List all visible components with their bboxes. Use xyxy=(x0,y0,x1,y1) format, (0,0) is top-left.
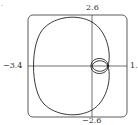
x-min-label: −3.4 xyxy=(3,62,22,70)
x-max-label: 1.8 xyxy=(130,62,138,70)
y-min-label: −2.6 xyxy=(82,117,101,125)
y-max-label: 2.6 xyxy=(86,4,99,12)
pinch-point xyxy=(107,65,110,68)
inner-loop-upper xyxy=(92,61,108,66)
inner-loop-lower xyxy=(92,66,108,71)
